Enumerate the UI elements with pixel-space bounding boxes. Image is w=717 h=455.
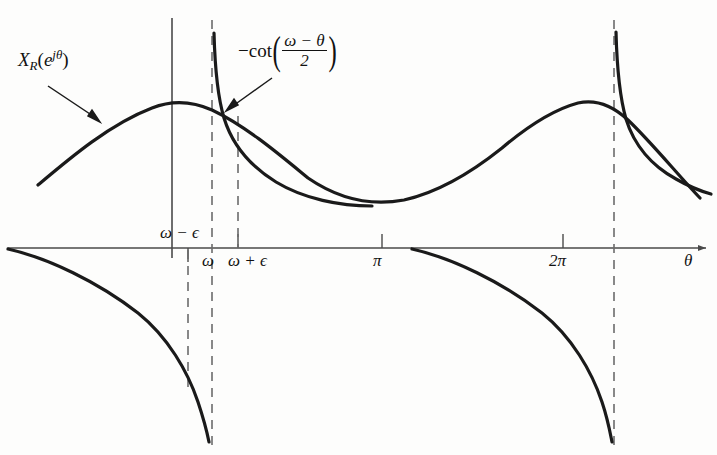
curves-group	[8, 32, 711, 442]
tick-label-omega-minus-epsilon: ω − ϵ	[160, 224, 199, 241]
tick-label-omega: ω	[202, 252, 214, 269]
label-cotangent-formula: −cot ( ω − θ 2 )	[238, 32, 337, 69]
axes-group	[8, 18, 706, 258]
label-cot-name: −cot	[238, 41, 272, 60]
tick-label-two-pi: 2π	[549, 252, 566, 269]
curve-xr-smooth	[38, 102, 700, 202]
curve-cot-lower-left	[8, 249, 209, 442]
tick-label-pi: π	[373, 252, 382, 269]
label-xr-spectrum: XR(ejθ)	[18, 48, 69, 72]
dashed-verticals-group	[188, 20, 614, 452]
arrow-head-xr	[88, 110, 100, 122]
curve-cot-lower-right	[412, 249, 612, 442]
arrow-head-cot	[226, 99, 238, 111]
plot-svg	[0, 0, 717, 455]
annotation-arrows-group	[48, 78, 272, 122]
label-xr-base: X	[18, 49, 30, 70]
label-cot-close-paren: )	[328, 35, 336, 66]
x-axis-arrowhead	[698, 245, 706, 251]
label-cot-open-paren: (	[272, 35, 280, 66]
label-cot-denominator: 2	[282, 51, 326, 69]
axis-label-theta: θ	[684, 252, 692, 269]
label-xr-exponent: jθ	[52, 47, 62, 62]
label-xr-subscript: R	[30, 58, 38, 73]
curve-cot-upper-right	[616, 32, 711, 194]
label-cot-numerator: ω − θ	[282, 32, 326, 51]
tick-label-omega-plus-epsilon: ω + ϵ	[228, 252, 267, 269]
arrow-line-xr	[48, 86, 96, 118]
label-xr-close-paren: )	[62, 49, 68, 70]
figure-canvas: XR(ejθ) −cot ( ω − θ 2 ) ω − ϵ ω ω + ϵ π…	[0, 0, 717, 455]
label-cot-fraction: ω − θ 2	[282, 32, 326, 69]
